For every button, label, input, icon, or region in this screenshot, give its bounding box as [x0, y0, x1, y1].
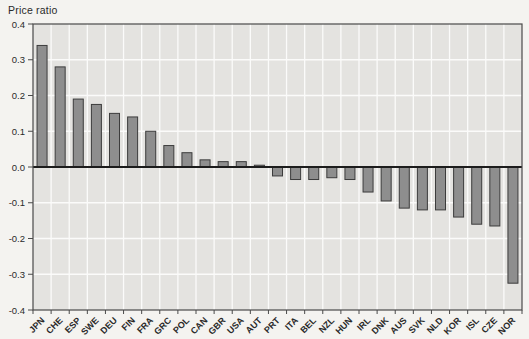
x-tick-label-NLD: NLD	[425, 315, 446, 336]
x-tick-label-GRC: GRC	[152, 315, 174, 337]
y-tick-label: 0.0	[12, 162, 25, 173]
bar-CHE	[55, 67, 65, 167]
x-tick-label-SWE: SWE	[79, 315, 101, 337]
x-tick-label-USA: USA	[225, 315, 246, 336]
x-tick-label-HUN: HUN	[333, 315, 354, 336]
x-tick-label-AUT: AUT	[244, 315, 265, 336]
bar-ESP	[73, 99, 83, 167]
x-tick-label-JPN: JPN	[27, 315, 46, 334]
x-tick-label-DEU: DEU	[98, 315, 119, 336]
x-tick-label-CAN: CAN	[189, 315, 210, 336]
bar-NOR	[508, 167, 518, 283]
x-tick-label-CHE: CHE	[44, 315, 65, 336]
x-tick-label-PRT: PRT	[262, 315, 282, 335]
bar-SWE	[91, 104, 101, 167]
bar-FIN	[128, 117, 138, 167]
x-tick-label-GBR: GBR	[206, 315, 228, 337]
y-tick-label: 0.1	[12, 126, 25, 137]
bar-CZE	[490, 167, 500, 226]
y-tick-label: 0.2	[12, 90, 25, 101]
bar-NZL	[327, 167, 337, 178]
y-tick-label: -0.3	[9, 269, 25, 280]
bar-BEL	[309, 167, 319, 180]
bar-POL	[182, 153, 192, 167]
x-tick-label-NOR: NOR	[496, 315, 518, 337]
y-tick-label: -0.4	[9, 305, 25, 316]
y-tick-label: 0.4	[12, 19, 25, 30]
bar-PRT	[273, 167, 283, 176]
y-tick-label: -0.1	[9, 197, 25, 208]
bar-GRC	[164, 146, 174, 167]
x-tick-label-ESP: ESP	[63, 315, 83, 335]
bar-JPN	[37, 45, 47, 167]
bar-NLD	[436, 167, 446, 210]
bar-DNK	[381, 167, 391, 201]
x-tick-label-ISL: ISL	[464, 315, 481, 332]
x-tick-label-KOR: KOR	[442, 315, 464, 337]
x-tick-label-FIN: FIN	[120, 315, 137, 332]
x-tick-label-FRA: FRA	[135, 315, 156, 336]
y-tick-label: 0.3	[12, 54, 25, 65]
bar-SVK	[417, 167, 427, 210]
bar-DEU	[110, 113, 120, 167]
x-tick-label-ITA: ITA	[283, 315, 300, 332]
x-tick-label-BEL: BEL	[298, 315, 318, 335]
x-tick-label-NZL: NZL	[317, 315, 337, 335]
y-tick-label: -0.2	[9, 233, 25, 244]
chart-page: Price ratio 0.40.30.20.10.0-0.1-0.2-0.3-…	[0, 0, 529, 339]
bar-FRA	[146, 131, 156, 167]
bar-HUN	[345, 167, 355, 180]
x-tick-label-POL: POL	[171, 315, 192, 336]
bar-CAN	[200, 160, 210, 167]
x-tick-label-AUS: AUS	[388, 315, 409, 336]
bar-IRL	[363, 167, 373, 192]
bar-AUS	[399, 167, 409, 208]
bar-ITA	[291, 167, 301, 180]
bar-KOR	[454, 167, 464, 217]
x-tick-label-SVK: SVK	[407, 315, 428, 336]
bar-ISL	[472, 167, 482, 224]
x-tick-label-CZE: CZE	[479, 315, 499, 335]
bar-chart: 0.40.30.20.10.0-0.1-0.2-0.3-0.4JPNCHEESP…	[0, 0, 529, 339]
x-tick-label-DNK: DNK	[370, 315, 391, 336]
